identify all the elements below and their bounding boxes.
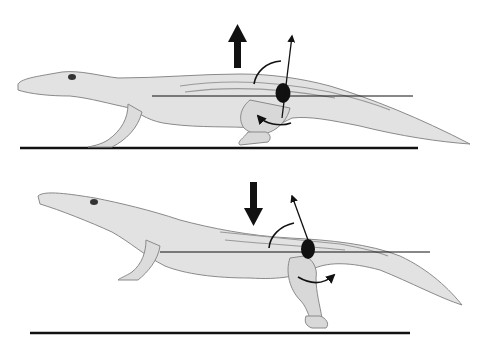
- eye: [90, 199, 98, 205]
- hip-joint: [301, 239, 315, 259]
- force-vector-arrow: [292, 196, 308, 240]
- bottom-panel: [30, 182, 462, 333]
- top-panel: [18, 24, 470, 148]
- eye: [68, 74, 76, 80]
- crocodile-posture-diagram: [0, 0, 498, 349]
- hind-foot: [239, 132, 270, 145]
- hip-joint: [276, 83, 291, 103]
- arrow-up-icon: [228, 24, 247, 68]
- arrow-down-icon: [244, 182, 263, 226]
- hind-foot: [305, 316, 327, 328]
- diagram-canvas: Crocodile hip joint posture comparison: [0, 0, 498, 349]
- front-leg: [88, 104, 142, 147]
